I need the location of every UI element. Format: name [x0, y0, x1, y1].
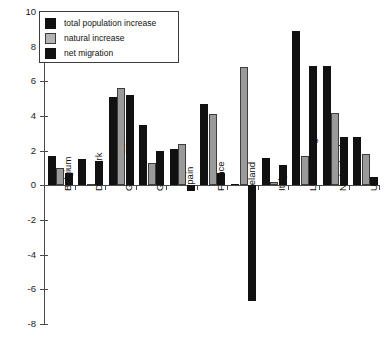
category-label: Italy: [277, 174, 287, 191]
category-label: Greece: [155, 160, 165, 191]
bar-chart: 1086420-2-4-6-8 BelgiumDenmarkGerman FRG…: [0, 0, 388, 343]
category-label: Netherlands: [338, 140, 348, 191]
bar: [170, 149, 178, 185]
bar: [109, 97, 117, 185]
bar: [353, 137, 361, 186]
bar: [139, 125, 147, 186]
bar: [323, 66, 331, 186]
legend-swatch-icon-migration: [45, 48, 56, 59]
bar-group: [349, 12, 380, 324]
category-label: Denmark: [94, 153, 104, 192]
bar: [292, 31, 300, 185]
y-tick-label: -4: [28, 250, 36, 260]
y-tick-label: -2: [28, 215, 36, 225]
y-tick-label: -8: [28, 319, 36, 329]
bar: [200, 104, 208, 185]
category-label: Luxembourg: [308, 139, 318, 192]
bar: [78, 159, 86, 185]
legend-label-natural: natural increase: [64, 34, 124, 43]
bar-group: [258, 12, 289, 324]
y-tick-label: 2: [31, 146, 36, 156]
category-label: Ireland: [247, 162, 257, 191]
category-label: German FR: [124, 142, 134, 192]
y-tick-label: -6: [28, 285, 36, 295]
chart-legend: total population increase natural increa…: [39, 11, 179, 63]
y-tick-label: 6: [31, 77, 36, 87]
y-tick-label: 8: [31, 42, 36, 52]
category-label: Belgium: [63, 157, 73, 191]
legend-item-migration: net migration: [45, 46, 173, 60]
y-tick-label: 10: [25, 7, 36, 17]
bar: [48, 156, 56, 185]
legend-item-natural: natural increase: [45, 31, 173, 45]
legend-swatch-icon-natural: [45, 33, 56, 44]
bar: [262, 158, 270, 186]
legend-label-total: total population increase: [64, 19, 156, 28]
category-label: Spain: [185, 167, 195, 191]
y-tick: -8: [40, 324, 48, 325]
legend-label-migration: net migration: [64, 49, 113, 58]
legend-swatch-icon-total: [45, 18, 56, 29]
y-tick-label: 4: [31, 111, 36, 121]
bar: [231, 184, 239, 186]
bar: [248, 185, 256, 301]
legend-item-total: total population increase: [45, 16, 173, 30]
category-label: UK: [369, 178, 379, 191]
category-label: France: [216, 162, 226, 192]
y-tick-label: 0: [31, 181, 36, 191]
